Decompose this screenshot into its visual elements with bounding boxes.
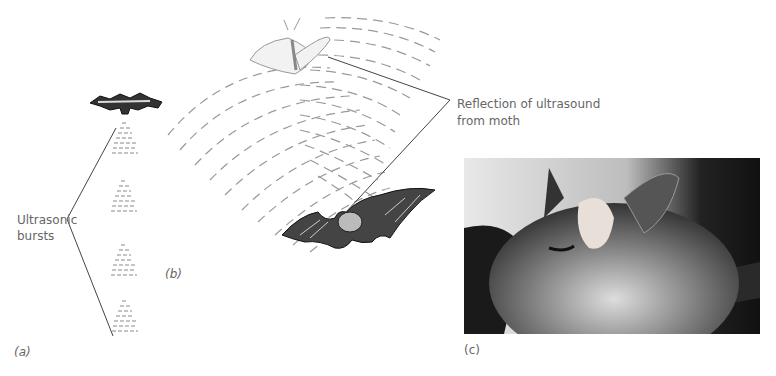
bat-face-photo xyxy=(464,158,760,334)
moth-icon xyxy=(250,18,330,74)
panel-a-label: (a) xyxy=(14,344,31,360)
ultrasonic-label: Ultrasonic xyxy=(17,212,77,228)
hunting-bat-icon xyxy=(282,188,435,248)
top-bat-icon xyxy=(90,93,162,114)
reflection-label-line1: Reflection of ultrasound xyxy=(457,96,600,112)
reflection-label-line2: from moth xyxy=(457,113,520,129)
ultrasonic-burst-cones xyxy=(111,123,138,331)
panel-c-label: (c) xyxy=(464,342,480,358)
panel-b-label: (b) xyxy=(165,266,182,282)
bursts-bracket-line xyxy=(67,128,116,336)
bursts-label: bursts xyxy=(17,228,54,244)
